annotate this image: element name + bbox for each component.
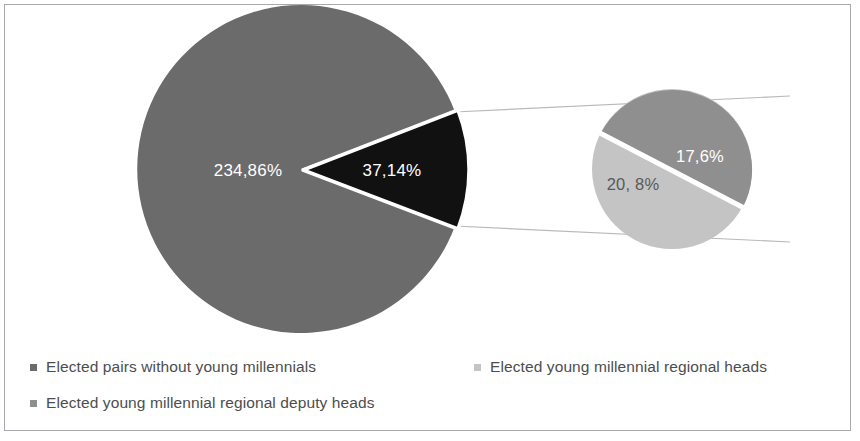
legend-swatch-icon (30, 400, 37, 407)
legend-item-regional-heads[interactable]: Elected young millennial regional heads (474, 352, 854, 382)
chart-legend: Elected pairs without young millennials … (0, 352, 860, 432)
secondary-slice-dark-label: 17,6% (676, 147, 724, 165)
pie-chart-svg: 234,86% 37,14% 17,6% 20, 8% (0, 0, 860, 350)
legend-item-label: Elected young millennial regional deputy… (46, 394, 375, 412)
legend-column-right: Elected young millennial regional heads (474, 352, 854, 388)
chart-figure: 234,86% 37,14% 17,6% 20, 8% Elected pair… (0, 0, 860, 441)
legend-item-deputy-heads[interactable]: Elected young millennial regional deputy… (30, 388, 470, 418)
legend-column-left: Elected pairs without young millennials … (30, 352, 470, 424)
secondary-pie (592, 89, 752, 249)
legend-item-label: Elected pairs without young millennials (46, 358, 316, 376)
secondary-slice-light-label: 20, 8% (607, 175, 660, 193)
legend-item-label: Elected young millennial regional heads (490, 358, 767, 376)
pie-of-pie-plot: 234,86% 37,14% 17,6% 20, 8% (0, 0, 860, 350)
legend-item-elected-pairs[interactable]: Elected pairs without young millennials (30, 352, 470, 382)
primary-slice-dark-label: 37,14% (363, 161, 422, 180)
legend-swatch-icon (30, 364, 37, 371)
legend-swatch-icon (474, 364, 481, 371)
primary-slice-large-label: 234,86% (214, 161, 283, 180)
